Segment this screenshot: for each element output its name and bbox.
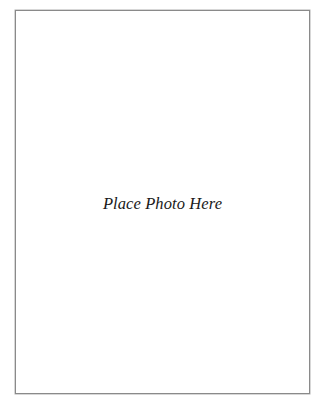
photo-placeholder-label: Place Photo Here xyxy=(16,194,309,214)
document-page: Place Photo Here xyxy=(0,0,324,404)
photo-placeholder-frame[interactable]: Place Photo Here xyxy=(15,10,310,394)
